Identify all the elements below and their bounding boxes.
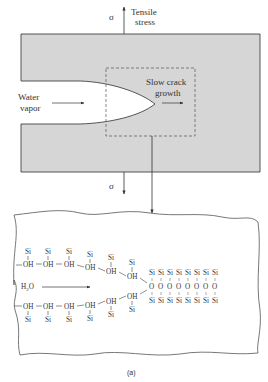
- slow-crack-label-line1: Slow crack: [146, 77, 187, 87]
- si-atom: Si: [25, 248, 31, 256]
- svg-text:Si: Si: [203, 297, 209, 305]
- water-vapor-label-line1: Water: [18, 92, 39, 102]
- hydroxyl-group: OH: [23, 303, 33, 311]
- si-atom: Si: [25, 316, 31, 324]
- tensile-label-line2: stress: [135, 17, 155, 27]
- svg-text:Si: Si: [176, 269, 182, 277]
- svg-text:O: O: [158, 283, 163, 291]
- svg-text:Si: Si: [212, 269, 218, 277]
- water-vapor-label-line2: vapor: [20, 103, 41, 113]
- hydroxyl-group: OH: [64, 261, 74, 269]
- svg-text:Si: Si: [149, 297, 155, 305]
- si-atom: Si: [45, 248, 51, 256]
- hydroxyl-group: OH: [127, 273, 137, 281]
- hydroxyl-group: OH: [43, 303, 53, 311]
- svg-text:Si: Si: [167, 297, 173, 305]
- svg-text:O: O: [194, 283, 199, 291]
- slow-crack-label-line2: growth: [155, 88, 181, 98]
- hydroxyl-group: OH: [85, 264, 95, 272]
- svg-text:O: O: [203, 283, 208, 291]
- si-atom: Si: [129, 306, 135, 314]
- hydroxyl-group: OH: [106, 268, 116, 276]
- magnified-region-outline: [14, 211, 261, 356]
- svg-text:Si: Si: [176, 297, 182, 305]
- si-atom: Si: [87, 251, 93, 259]
- svg-text:O: O: [149, 283, 154, 291]
- hydroxyl-group: OH: [127, 293, 137, 301]
- svg-text:O: O: [167, 283, 172, 291]
- si-atom: Si: [108, 311, 114, 319]
- hydroxyl-group: OH: [43, 261, 53, 269]
- hydroxyl-group: OH: [23, 261, 33, 269]
- svg-text:Si: Si: [149, 269, 155, 277]
- svg-text:Si: Si: [158, 297, 164, 305]
- svg-text:Si: Si: [167, 269, 173, 277]
- si-atom: Si: [66, 316, 72, 324]
- sigma-bottom-label: σ: [109, 181, 114, 191]
- hydroxyl-group: OH: [106, 298, 116, 306]
- slow-crack-growth-diagram: σ Tensile stress σ Water vapor Slow crac…: [0, 0, 268, 382]
- svg-text:Si: Si: [158, 269, 164, 277]
- svg-text:Si: Si: [194, 269, 200, 277]
- svg-text:Si: Si: [212, 297, 218, 305]
- si-atom: Si: [129, 259, 135, 267]
- si-atom: Si: [87, 315, 93, 323]
- si-atom: Si: [108, 254, 114, 262]
- svg-text:Si: Si: [185, 297, 191, 305]
- svg-text:Si: Si: [203, 269, 209, 277]
- si-atom: Si: [66, 248, 72, 256]
- tensile-label-line1: Tensile: [131, 7, 157, 17]
- sigma-top-label: σ: [109, 12, 114, 22]
- svg-text:Si: Si: [185, 269, 191, 277]
- figure-caption: (a): [127, 369, 136, 377]
- svg-text:Si: Si: [194, 297, 200, 305]
- svg-text:O: O: [212, 283, 217, 291]
- svg-text:O: O: [176, 283, 181, 291]
- hydroxyl-group: OH: [85, 302, 95, 310]
- svg-text:O: O: [185, 283, 190, 291]
- si-atom: Si: [45, 316, 51, 324]
- hydroxyl-group: OH: [64, 303, 74, 311]
